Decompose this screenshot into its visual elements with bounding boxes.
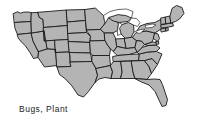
state-arizona — [38, 49, 57, 67]
state-mississippi — [111, 62, 123, 79]
state-north-dakota — [67, 10, 86, 23]
state-new-jersey — [154, 33, 160, 42]
state-new-mexico — [56, 50, 71, 68]
state-texas — [57, 62, 98, 98]
state-florida — [135, 79, 168, 107]
state-oklahoma — [70, 53, 93, 63]
state-washington — [14, 12, 32, 23]
states-layer — [14, 6, 185, 107]
state-connecticut — [161, 28, 166, 32]
state-wyoming — [44, 26, 69, 42]
state-oregon — [15, 22, 32, 35]
map-figure: Bugs, Plant — [0, 0, 207, 127]
state-nebraska — [68, 33, 91, 43]
state-kansas — [69, 42, 91, 54]
state-maine — [170, 6, 184, 24]
map-caption: Bugs, Plant — [19, 104, 68, 114]
state-south-dakota — [68, 21, 87, 34]
state-minnesota — [85, 8, 105, 30]
state-colorado — [55, 40, 70, 53]
state-louisiana — [95, 66, 113, 83]
state-rhode-island — [166, 28, 168, 32]
